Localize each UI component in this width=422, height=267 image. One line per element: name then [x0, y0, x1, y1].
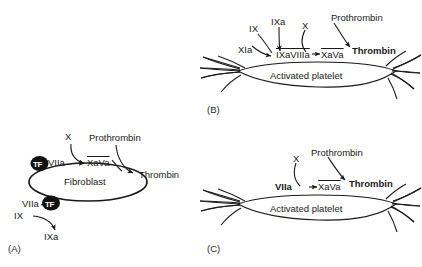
- fibroblast-cell-label: Fibroblast: [64, 176, 106, 187]
- panel-c-graphics: [200, 157, 421, 232]
- panel-b-factor-x-label: X: [302, 20, 308, 31]
- pseudopod-c-l4: [221, 208, 241, 225]
- tf-marker-upper-text: TF: [33, 159, 42, 170]
- panel-c-label: (C): [207, 243, 220, 254]
- panel-c-viia-label: VIIa: [275, 181, 292, 192]
- pseudopod-c-r4: [388, 211, 397, 232]
- panel-a-label: (A): [8, 243, 21, 254]
- panel-c-xava-label: XaVa: [318, 181, 341, 192]
- pseudopod-b-l8: [201, 72, 240, 78]
- arrow-ixa-to-ixaviiia-b: [279, 27, 280, 51]
- panel-b-factor-xia-label: XIa: [238, 44, 252, 55]
- panel-a-factor-ix-label: IX: [14, 210, 23, 221]
- panel-a-thrombin-label: Thrombin: [139, 169, 179, 180]
- panel-b-ixaviiia-label: IXaVIIIa: [276, 49, 310, 60]
- pseudopod-b-r4: [388, 78, 397, 99]
- panel-b-prothrombin-label: Prothrombin: [331, 12, 383, 23]
- arrow-prothrombin-to-thrombin-c: [328, 157, 345, 180]
- panel-b-factor-ix-label: IX: [249, 23, 258, 34]
- panel-a-factor-ixa-label: IXa: [44, 231, 58, 242]
- arrow-prothrombin-to-thrombin-b: [334, 23, 350, 47]
- panel-b-factor-ixa-top-label: IXa: [271, 16, 285, 27]
- pseudopod-b-r8: [391, 73, 414, 89]
- tf-marker-lower-text: TF: [45, 199, 54, 210]
- panel-b-label: (B): [207, 104, 220, 115]
- panel-a-viia-lower-label: VIIa: [22, 198, 39, 209]
- panel-b-xava-label: XaVa: [321, 49, 344, 60]
- arrow-ix-to-ixa: [33, 216, 55, 230]
- coagulation-figure: X Prothrombin TF VIIa XaVa Thrombin Fibr…: [0, 0, 422, 267]
- arrow-x-to-xava: [71, 144, 84, 164]
- figure-canvas: [0, 0, 422, 267]
- panel-c-platelet-label: Activated platelet: [270, 203, 342, 214]
- arrow-ix-to-ixaviiia-b: [258, 34, 272, 53]
- pseudopod-c-l8: [201, 205, 240, 211]
- pseudopod-c-r8: [391, 206, 414, 222]
- arrow-x-to-xava-c: [294, 163, 300, 186]
- panel-c-thrombin-label: Thrombin: [349, 178, 393, 189]
- panel-a-xava-label: XaVa: [87, 157, 110, 168]
- panel-a-factor-x-label: X: [65, 131, 71, 142]
- panel-c-factor-x-label: X: [293, 153, 299, 164]
- panel-b-platelet-label: Activated platelet: [270, 70, 342, 81]
- panel-b-graphics: [200, 23, 421, 99]
- panel-a-viia-upper-label: VIIa: [48, 157, 65, 168]
- panel-b-thrombin-label: Thrombin: [352, 45, 396, 56]
- pseudopod-b-l4: [221, 75, 241, 92]
- panel-c-prothrombin-label: Prothrombin: [311, 147, 363, 158]
- panel-a-prothrombin-label: Prothrombin: [89, 132, 141, 143]
